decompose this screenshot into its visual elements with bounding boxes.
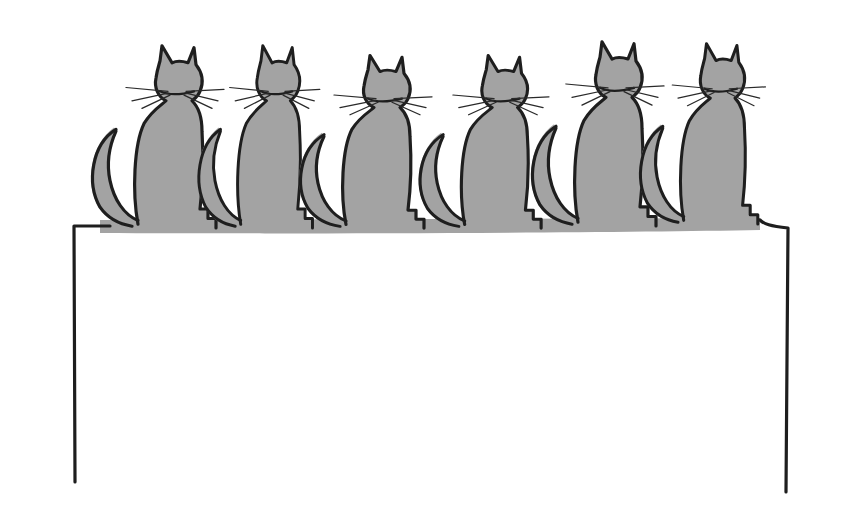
table-outline [74,226,110,482]
cat-2 [198,46,320,228]
cat-4 [419,55,549,228]
cat-6 [639,44,765,224]
table-outline-right [760,220,788,492]
cats-on-table-illustration [0,0,864,506]
cat-3 [299,55,432,228]
